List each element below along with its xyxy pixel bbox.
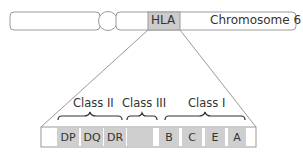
- gene-dr: DR: [104, 128, 126, 146]
- gene-e: E: [205, 128, 225, 146]
- hla-region-label: HLA: [151, 13, 175, 27]
- gene-a: A: [228, 128, 246, 146]
- class-iii-region: [127, 128, 153, 146]
- brace-class-iii: [127, 113, 157, 120]
- gene-dp: DP: [57, 128, 79, 146]
- gene-b: B: [159, 128, 179, 146]
- gene-c: C: [182, 128, 202, 146]
- chromosome-label: Chromosome 6: [210, 13, 301, 27]
- class-iii-label: Class III: [122, 96, 166, 110]
- zoom-line-left: [41, 30, 148, 127]
- brace-class-ii: [58, 112, 122, 120]
- zoom-line-right: [180, 30, 256, 127]
- gene-dq: DQ: [81, 128, 103, 146]
- centromere: [99, 12, 118, 31]
- brace-class-i: [165, 112, 245, 120]
- class-i-label: Class I: [188, 96, 225, 110]
- chromosome-short-arm: [10, 12, 100, 30]
- class-ii-label: Class II: [73, 96, 114, 110]
